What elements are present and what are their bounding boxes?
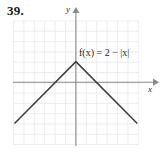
figure-panel: 39. (0, 0, 162, 153)
equation-annotation: f(x) = 2 − |x| (79, 48, 129, 58)
x-axis-label: x (148, 85, 152, 94)
plot-graph (0, 0, 162, 153)
y-axis-label: y (66, 5, 70, 14)
y-axis (72, 7, 79, 146)
